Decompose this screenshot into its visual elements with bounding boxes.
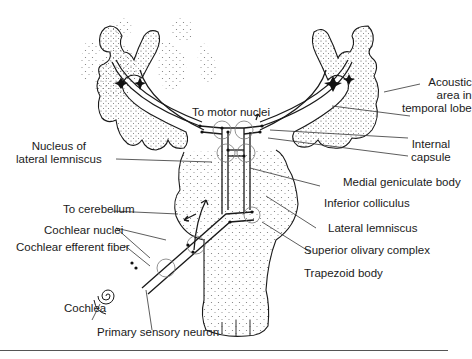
label-acoustic-area-line1: Acoustic xyxy=(402,76,472,89)
label-acoustic-area-line3: temporal lobe xyxy=(402,102,472,115)
label-internal-capsule-line1: Internal xyxy=(411,138,451,151)
label-to-motor-nuclei: To motor nuclei xyxy=(192,106,270,119)
label-lateral-lemniscus: Lateral lemniscus xyxy=(328,222,417,235)
label-to-cerebellum: To cerebellum xyxy=(63,203,135,216)
label-medial-geniculate-body: Medial geniculate body xyxy=(343,176,461,189)
label-trapezoid-body: Trapezoid body xyxy=(304,267,383,280)
label-acoustic-area: Acoustic area in temporal lobe xyxy=(402,76,472,115)
label-cochlea: Cochlea xyxy=(64,302,106,315)
label-internal-capsule-line2: capsule xyxy=(411,151,451,164)
label-primary-sensory-neuron: Primary sensory neuron xyxy=(97,326,219,339)
label-nucleus-line1: Nucleus of xyxy=(16,140,102,153)
label-internal-capsule: Internal capsule xyxy=(411,138,451,164)
label-cochlear-efferent-fiber: Cochlear efferent fiber xyxy=(16,241,130,254)
label-acoustic-area-line2: area in xyxy=(402,89,472,102)
label-superior-olivary-complex: Superior olivary complex xyxy=(304,244,430,257)
label-cochlear-nuclei: Cochlear nuclei xyxy=(44,224,123,237)
label-nucleus-lateral-lemniscus: Nucleus of lateral lemniscus xyxy=(16,140,102,166)
label-nucleus-line2: lateral lemniscus xyxy=(16,153,102,166)
label-inferior-colliculus: Inferior colliculus xyxy=(324,197,410,210)
figure-bottom-rule xyxy=(0,350,448,351)
right-temporal-lobe xyxy=(293,26,379,148)
